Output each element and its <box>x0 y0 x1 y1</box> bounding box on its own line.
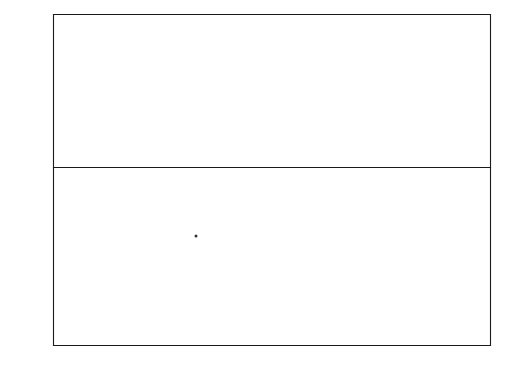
bottom-panel-frame <box>54 168 491 346</box>
figure-container <box>0 0 507 380</box>
top-panel-frame <box>54 15 491 168</box>
scan-speck <box>195 235 198 238</box>
porosity-permeability-figure <box>0 0 507 380</box>
